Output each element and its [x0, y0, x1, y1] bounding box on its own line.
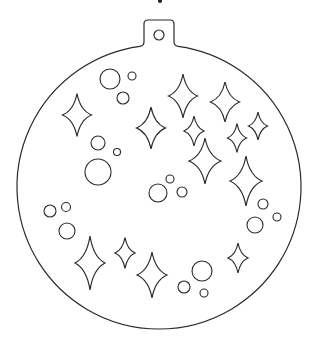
bubble-circle — [114, 149, 121, 156]
bubble-circle — [192, 261, 212, 281]
bubble-circle — [258, 199, 268, 209]
sparkle-group — [63, 74, 268, 298]
bubble-circle — [44, 205, 56, 217]
sparkle-star-icon — [228, 124, 247, 153]
bubble-circle — [200, 289, 208, 297]
bubble-circle — [178, 281, 190, 293]
bubble-circle — [91, 136, 105, 150]
bubble-circle — [177, 187, 187, 197]
sparkle-star-icon — [169, 74, 198, 118]
bubble-circle — [100, 69, 120, 89]
sparkle-star-icon — [137, 107, 166, 149]
bubble-circle — [117, 92, 129, 104]
hanger-hole — [154, 30, 164, 40]
ornament-outline-illustration — [0, 0, 315, 350]
sparkle-star-icon — [75, 236, 105, 290]
bubble-circle — [273, 213, 281, 221]
ornament-drawing — [0, 0, 315, 350]
sparkle-star-icon — [228, 243, 248, 273]
bubble-circle — [85, 159, 111, 185]
bubble-circle — [247, 217, 263, 233]
sparkle-star-icon — [63, 94, 92, 137]
sparkle-star-icon — [184, 116, 204, 146]
bubble-circle — [128, 72, 136, 80]
sparkle-star-icon — [115, 238, 135, 269]
bubble-circle — [166, 175, 174, 183]
ornament-body-outline — [17, 20, 301, 329]
sparkle-star-icon — [230, 156, 262, 206]
bubble-circle — [62, 203, 71, 212]
sparkle-star-icon — [249, 112, 268, 140]
sparkle-star-icon — [137, 252, 167, 298]
bubble-circle — [59, 223, 75, 239]
bubble-circle — [149, 184, 167, 202]
sparkle-star-icon — [211, 82, 240, 122]
